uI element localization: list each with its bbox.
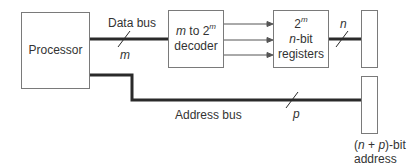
registers-n: n (289, 32, 296, 46)
address-bus-line (89, 75, 361, 100)
decoder-sup: m (209, 22, 216, 31)
decoder-label: decoder (174, 39, 217, 53)
address-register-high (361, 10, 378, 68)
register-output-width-label: n (340, 17, 347, 31)
decoder-block: m to 2m decoder (168, 10, 224, 68)
registers-label: registers (278, 47, 324, 61)
decoder-m-label: m (176, 24, 186, 38)
data-bus-width-label: m (120, 48, 130, 62)
processor-block: Processor (21, 12, 90, 89)
address-caption: (n + p)-bit address (354, 138, 406, 166)
decoder-to-label: to 2 (186, 24, 209, 38)
address-bus-label: Address bus (175, 108, 242, 122)
registers-bit: -bit (296, 32, 313, 46)
registers-count: 2 (294, 17, 301, 31)
address-bus-width-label: p (293, 107, 300, 121)
address-register-low (361, 76, 378, 134)
registers-block: 2m n-bit registers (273, 10, 329, 68)
decoder-output-arrows (223, 22, 273, 58)
registers-sup: m (301, 15, 308, 24)
data-bus-label: Data bus (108, 16, 156, 30)
processor-label: Processor (28, 43, 82, 58)
